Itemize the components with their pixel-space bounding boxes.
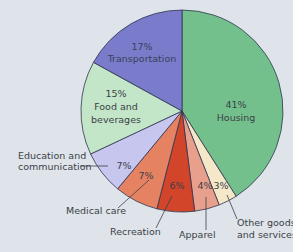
food-label-2: beverages [91, 114, 141, 125]
other-pct: 3% [213, 180, 228, 191]
medical-pct: 7% [138, 170, 153, 181]
housing-label: Housing [217, 112, 256, 123]
transportation-label: Transportation [107, 53, 177, 64]
medical-callout: Medical care [66, 205, 126, 216]
education-pct: 7% [116, 160, 131, 171]
food-pct: 15% [105, 88, 126, 99]
food-label-1: Food and [94, 101, 138, 112]
recreation-pct: 6% [169, 180, 184, 191]
other-callout-1: Other goods [237, 217, 293, 228]
apparel-callout: Apparel [179, 229, 216, 240]
transportation-pct: 17% [131, 41, 152, 52]
housing-pct: 41% [225, 99, 246, 110]
education-callout-1: Education and [18, 150, 86, 161]
recreation-callout: Recreation [110, 226, 161, 237]
pie-chart: 17% Transportation 15% Food and beverage… [0, 0, 293, 252]
other-callout-2: and services [237, 229, 293, 240]
apparel-pct: 4% [197, 180, 212, 191]
education-callout-2: communication [18, 161, 91, 172]
